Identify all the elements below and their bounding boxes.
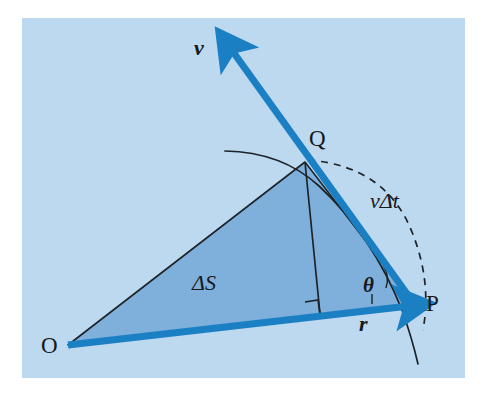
radius-vector-label: r: [359, 313, 368, 335]
swept-area-label: ΔS: [192, 272, 216, 294]
point-label-p: P: [426, 292, 439, 315]
diagram-canvas: [0, 0, 488, 407]
velocity-vector-label: v: [194, 37, 204, 59]
physics-diagram-figure: v r O Q P ΔS vΔt θ: [0, 0, 488, 407]
chord-length-label: vΔt: [370, 190, 399, 212]
point-label-q: Q: [309, 127, 326, 150]
point-label-o: O: [41, 334, 58, 357]
angle-label-theta: θ: [363, 275, 374, 296]
